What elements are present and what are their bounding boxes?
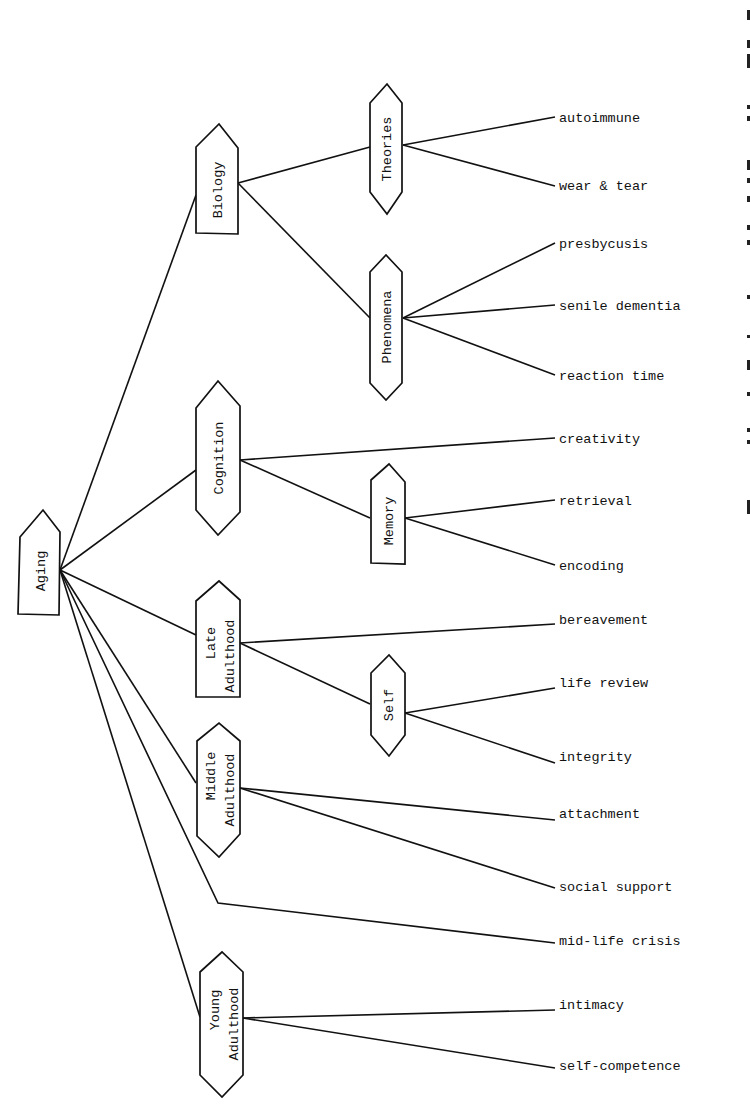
edge-memory-retrieval — [405, 500, 555, 518]
edge-self-life-review — [405, 688, 555, 713]
node-theories[interactable]: Theories — [370, 84, 402, 214]
edge-memory-encoding — [405, 518, 555, 565]
node-young-adulthood-line2: Adulthood — [227, 988, 242, 1061]
leaf-bereavement[interactable]: bereavement — [559, 613, 648, 628]
edges — [60, 117, 555, 1068]
leaf-mid-life-crisis[interactable]: mid-life crisis — [559, 934, 681, 949]
edge-middle-adulthood-attachment — [240, 788, 555, 820]
edge-cognition-creativity — [240, 438, 555, 460]
node-middle-adulthood[interactable]: Middle Adulthood — [197, 723, 240, 857]
edge-young-adulthood-intimacy — [243, 1010, 555, 1018]
node-memory[interactable]: Memory — [371, 464, 405, 564]
edge-biology-theories — [238, 147, 370, 183]
leaf-social-support[interactable]: social support — [559, 880, 672, 895]
node-theories-label: Theories — [380, 117, 395, 182]
leaf-self-competence[interactable]: self-competence — [559, 1059, 681, 1074]
leaf-reaction-time[interactable]: reaction time — [559, 369, 664, 384]
edge-late-adulthood-bereavement — [240, 624, 555, 643]
node-self-label: Self — [382, 689, 397, 721]
node-aging[interactable]: Aging — [18, 510, 60, 615]
node-late-adulthood[interactable]: Late Adulthood — [196, 581, 240, 697]
leaf-senile-dementia[interactable]: senile dementia — [559, 299, 681, 314]
leaf-intimacy[interactable]: intimacy — [559, 998, 624, 1013]
aging-concept-tree: Aging Biology Cognition Late Adulthood M… — [0, 0, 750, 1106]
node-young-adulthood-line1: Young — [208, 990, 223, 1031]
node-aging-label: Aging — [34, 551, 49, 592]
node-late-adulthood-line2: Adulthood — [223, 620, 238, 693]
leaf-retrieval[interactable]: retrieval — [559, 494, 632, 509]
edge-young-adulthood-self-competence — [243, 1018, 555, 1068]
edge-cognition-memory — [240, 460, 370, 518]
node-cognition-label: Cognition — [212, 422, 227, 495]
node-phenomena-label: Phenomena — [380, 291, 395, 364]
edge-middle-adulthood-social-support — [240, 788, 555, 888]
node-young-adulthood[interactable]: Young Adulthood — [200, 952, 243, 1097]
edge-late-adulthood-self — [240, 643, 370, 704]
edge-theories-autoimmune — [403, 117, 555, 145]
node-middle-adulthood-line1: Middle — [204, 752, 219, 801]
node-cognition[interactable]: Cognition — [196, 381, 240, 535]
edge-self-integrity — [405, 713, 555, 763]
node-biology-label: Biology — [211, 162, 226, 219]
leaf-wear-tear[interactable]: wear & tear — [559, 179, 648, 194]
edge-phenomena-reaction-time — [403, 318, 555, 375]
leaf-integrity[interactable]: integrity — [559, 750, 632, 765]
node-self[interactable]: Self — [371, 655, 405, 756]
edge-aging-mid-life-crisis — [60, 570, 555, 943]
node-middle-adulthood-line2: Adulthood — [223, 754, 238, 827]
leaf-encoding[interactable]: encoding — [559, 559, 624, 574]
leaf-creativity[interactable]: creativity — [559, 432, 640, 447]
leaf-labels: autoimmune wear & tear presbycusis senil… — [559, 111, 681, 1074]
leaf-presbycusis[interactable]: presbycusis — [559, 237, 648, 252]
edge-aging-biology — [60, 195, 196, 570]
edge-aging-cognition — [60, 470, 196, 570]
edge-aging-young-adulthood — [60, 570, 200, 1017]
leaf-attachment[interactable]: attachment — [559, 807, 640, 822]
node-phenomena[interactable]: Phenomena — [370, 255, 402, 400]
node-late-adulthood-line1: Late — [204, 627, 219, 659]
leaf-autoimmune[interactable]: autoimmune — [559, 111, 640, 126]
leaf-life-review[interactable]: life review — [559, 676, 648, 691]
edge-biology-phenomena — [238, 183, 370, 318]
node-biology[interactable]: Biology — [196, 124, 238, 234]
node-memory-label: Memory — [382, 497, 397, 546]
edge-theories-wear-tear — [403, 145, 555, 186]
